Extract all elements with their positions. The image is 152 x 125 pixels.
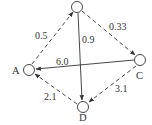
- edge-top-to-d: [78, 13, 82, 100]
- node-top: [72, 2, 83, 13]
- edge-c-to-d: [89, 66, 136, 102]
- node-a-label: A: [12, 66, 20, 76]
- edge-d-to-a-weight: 2.1: [44, 92, 57, 102]
- node-d-label: D: [79, 113, 87, 123]
- node-a: [24, 65, 35, 76]
- graph-canvas: [0, 0, 152, 125]
- edge-c-to-a: [36, 60, 134, 69]
- graph-diagram: A C D 0.5 0.33 0.9 6.0 3.1 2.1: [0, 0, 152, 125]
- node-c-label: C: [136, 71, 143, 81]
- edge-top-to-d-weight: 0.9: [82, 35, 95, 45]
- edge-c-to-d-weight: 3.1: [115, 84, 128, 94]
- edge-top-to-c-weight: 0.33: [109, 22, 127, 32]
- node-d: [78, 102, 89, 113]
- node-c: [135, 55, 146, 66]
- edge-top-to-c: [82, 11, 135, 55]
- edge-a-to-top-weight: 0.5: [35, 31, 48, 41]
- edge-c-to-a-weight: 6.0: [56, 57, 69, 67]
